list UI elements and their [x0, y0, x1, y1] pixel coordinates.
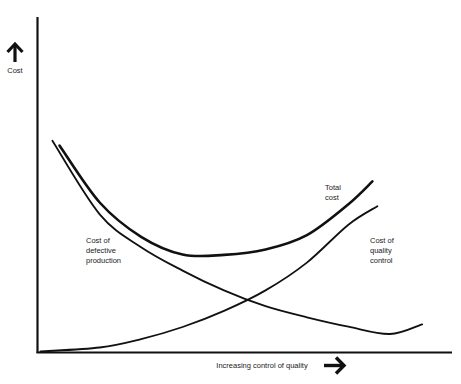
series-label-line: defective	[86, 246, 116, 255]
series-label-cost-of-quality-control: Cost ofqualitycontrol	[370, 236, 395, 265]
series-label-line: Cost of	[370, 236, 395, 245]
series-label-line: cost	[325, 193, 340, 202]
chart: Cost Increasing control of quality Total…	[0, 0, 461, 384]
up-arrow-icon	[8, 44, 23, 62]
series-label-cost-of-defective-production: Cost ofdefectiveproduction	[86, 236, 121, 265]
series-label-line: Cost of	[86, 236, 111, 245]
axes	[37, 17, 453, 353]
series-label-line: production	[86, 256, 121, 265]
x-axis-label: Increasing control of quality	[216, 361, 308, 370]
series-line-cost-of-quality-control	[40, 206, 377, 351]
y-axis-label: Cost	[7, 66, 23, 75]
series-label-line: control	[370, 256, 393, 265]
series-label-line: quality	[370, 246, 392, 255]
series-label-line: Total	[325, 183, 341, 192]
right-arrow-icon	[324, 358, 344, 374]
series-label-total-cost: Totalcost	[325, 183, 341, 202]
